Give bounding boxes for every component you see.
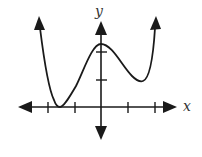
x-axis-label: x: [183, 98, 191, 114]
graph: y x: [0, 0, 202, 157]
y-axis-label: y: [94, 3, 104, 19]
x-axis-left-arrow-icon: [18, 101, 32, 113]
y-axis-up-arrow-icon: [95, 21, 107, 35]
curve-right-arrow-icon: [150, 16, 161, 30]
curve-left-arrow-icon: [34, 16, 45, 30]
function-curve: [40, 28, 155, 107]
x-axis-right-arrow-icon: [163, 101, 177, 113]
y-axis-down-arrow-icon: [95, 126, 107, 140]
